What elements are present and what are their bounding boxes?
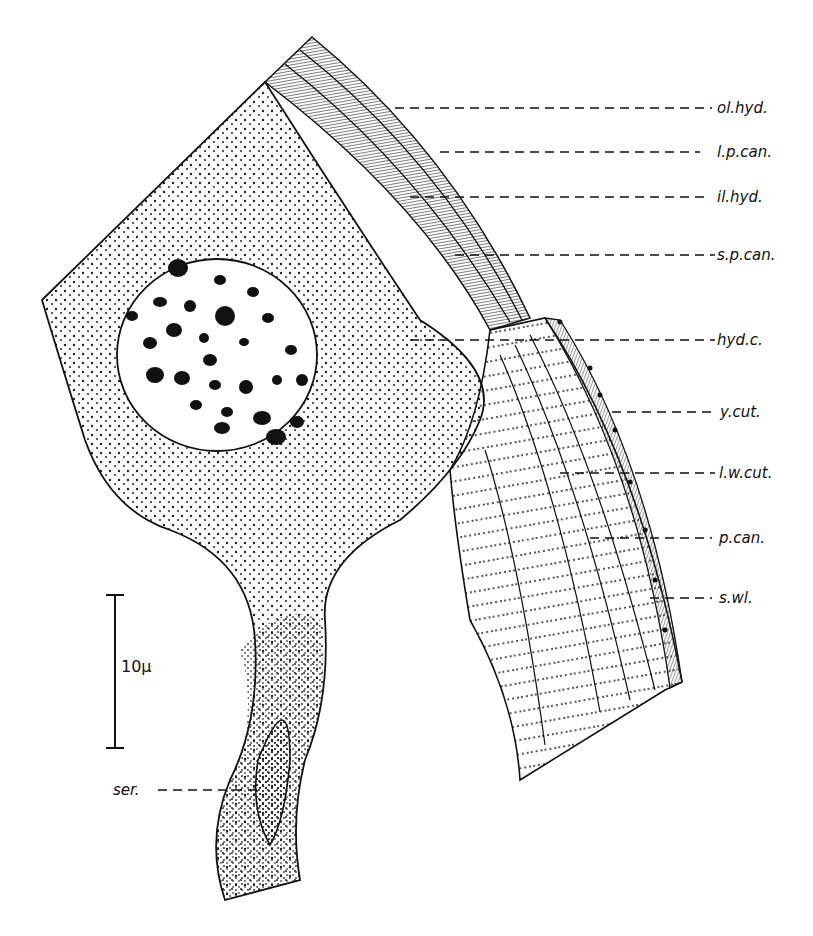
- label-hyd-c: hyd.c.: [717, 331, 763, 349]
- label-l-w-cut: l.w.cut.: [719, 464, 772, 482]
- scale-bar-label: 10μ: [121, 657, 152, 676]
- label-il-hyd: il.hyd.: [717, 188, 763, 206]
- label-y-cut: y.cut.: [719, 403, 761, 421]
- label-ol-hyd: ol.hyd.: [717, 99, 768, 117]
- label-l-p-can: l.p.can.: [717, 143, 772, 161]
- label-p-can: p.can.: [718, 529, 765, 547]
- histology-diagram: ol.hyd. l.p.can. il.hyd. s.p.can. hyd.c.…: [0, 0, 813, 936]
- label-ser: ser.: [113, 781, 140, 799]
- label-s-wl: s.wl.: [719, 589, 753, 607]
- nucleus: [117, 259, 317, 451]
- label-s-p-can: s.p.can.: [717, 246, 776, 264]
